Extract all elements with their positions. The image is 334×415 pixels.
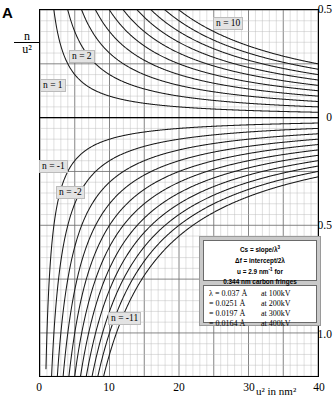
x-tick-label: 20 bbox=[164, 381, 194, 393]
legend-wavelength-box: λ = 0.037 Åat 100kV= 0.0251 Åat 200kV= 0… bbox=[203, 285, 317, 323]
legend-box: Cs = slope/λ3 Δf = intercept/2λ u = 2.9 … bbox=[199, 236, 321, 326]
legend-wavelength-row: = 0.0251 Åat 200kV bbox=[209, 299, 312, 309]
x-tick-label: 0 bbox=[24, 381, 54, 393]
legend-line-u: u = 2.9 nm-1 for bbox=[208, 266, 312, 278]
legend-line-cs: Cs = slope/λ3 bbox=[208, 244, 312, 256]
legend-formula-box: Cs = slope/λ3 Δf = intercept/2λ u = 2.9 … bbox=[203, 240, 317, 281]
curve-label: n = -11 bbox=[108, 312, 141, 325]
legend-wavelength-value: = 0.0164 Å bbox=[209, 319, 261, 329]
x-axis-title: u² in nm² bbox=[256, 385, 296, 397]
legend-wavelength-value: = 0.0251 Å bbox=[209, 299, 261, 309]
legend-wavelength-value: λ = 0.037 Å bbox=[209, 289, 261, 299]
legend-wavelength-row: λ = 0.037 Åat 100kV bbox=[209, 289, 312, 299]
curve-label: n = 10 bbox=[213, 17, 243, 30]
x-tick-label: 40 bbox=[304, 381, 334, 393]
curve-label: n = -1 bbox=[39, 160, 68, 173]
legend-wavelength-row: = 0.0164 Åat 400kV bbox=[209, 319, 312, 329]
curve-label: n = 1 bbox=[40, 79, 66, 92]
legend-wavelength-voltage: at 400kV bbox=[261, 319, 291, 328]
legend-wavelength-voltage: at 300kV bbox=[261, 309, 291, 318]
legend-wavelength-row: = 0.0197 Åat 300kV bbox=[209, 309, 312, 319]
curve-label: n = -2 bbox=[56, 186, 85, 199]
curve-label: n = 2 bbox=[69, 50, 95, 63]
legend-line-df: Δf = intercept/2λ bbox=[208, 256, 312, 266]
legend-wavelength-voltage: at 100kV bbox=[261, 289, 291, 298]
legend-wavelength-voltage: at 200kV bbox=[261, 299, 291, 308]
legend-line-fringes: 0.344 nm carbon fringes bbox=[208, 277, 312, 287]
x-tick-label: 10 bbox=[94, 381, 124, 393]
legend-wavelength-value: = 0.0197 Å bbox=[209, 309, 261, 319]
